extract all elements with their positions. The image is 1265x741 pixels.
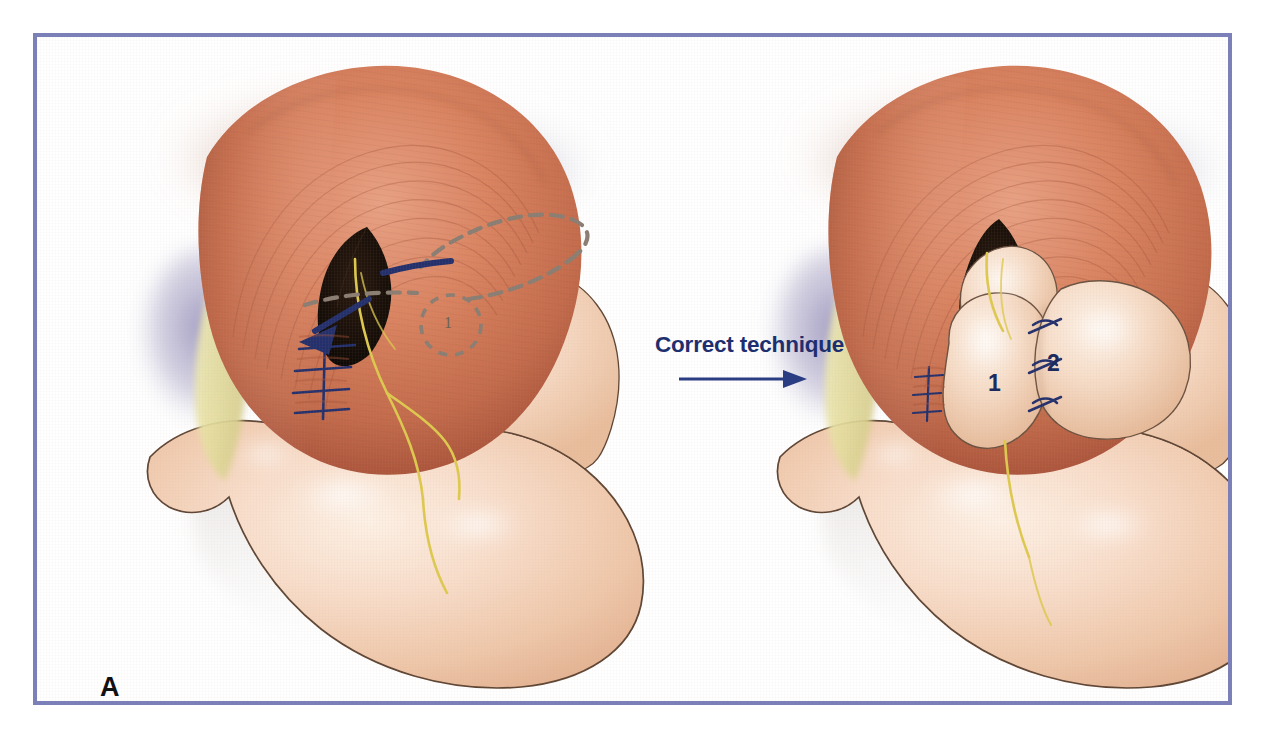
panel-letter: A (100, 674, 120, 701)
transition-arrow-icon (679, 370, 807, 388)
callout-label-right-2: 2 (1047, 352, 1060, 375)
transition-label: Correct technique (655, 333, 845, 358)
figure-root: Correct technique 1 1 2 A (0, 0, 1265, 741)
callout-label-left-1: 1 (444, 315, 452, 331)
transition-annotation: Correct technique (655, 333, 845, 388)
figure-border-frame: Correct technique 1 1 2 A (33, 33, 1232, 705)
callout-label-right-1: 1 (988, 372, 1001, 395)
